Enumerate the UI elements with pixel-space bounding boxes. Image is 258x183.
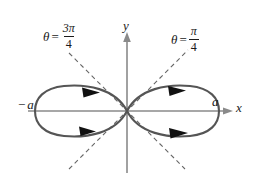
y-axis-label: y: [123, 19, 129, 32]
fraction-pi-over-4: π 4: [189, 25, 199, 53]
equals-symbol-right: =: [179, 33, 186, 46]
fraction-3pi-over-4: 3π 4: [61, 22, 77, 50]
minus-sign: −: [18, 98, 25, 111]
y-axis-arrowhead: [123, 32, 131, 42]
x-axis-label: x: [236, 101, 242, 114]
theta-symbol-right: θ: [171, 33, 177, 46]
label-positive-a: a: [212, 95, 219, 108]
label-negative-a: − a: [18, 98, 34, 111]
fraction-numerator-right: π: [189, 25, 199, 39]
fraction-denominator-right: 4: [189, 39, 199, 54]
label-theta-pi-over-4: θ = π 4: [171, 25, 199, 53]
fraction-numerator-left: 3π: [61, 22, 77, 36]
direction-arrow-right-loop-top: [168, 86, 186, 96]
label-theta-3pi-over-4: θ = 3π 4: [43, 22, 77, 50]
lemniscate-figure: θ = 3π 4 θ = π 4 y x − a a: [0, 0, 258, 183]
x-axis-arrowhead: [223, 107, 233, 114]
fraction-denominator-left: 4: [64, 36, 74, 51]
figure-canvas: [0, 0, 258, 183]
theta-symbol-left: θ: [43, 30, 49, 43]
equals-symbol-left: =: [51, 30, 58, 43]
negative-a-value: a: [27, 98, 34, 111]
